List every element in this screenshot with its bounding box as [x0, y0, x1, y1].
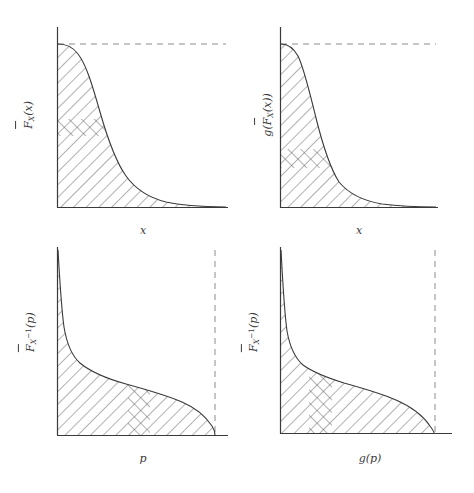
panel-top-left-plot	[0, 0, 240, 245]
panel-top-right-plot	[240, 0, 474, 245]
shaded-area-hatch	[279, 245, 439, 435]
x-axis-label-bottom-left: p	[113, 452, 173, 465]
x-axis-label-top-left: x	[113, 224, 173, 237]
x-axis-label-bottom-right: g(p)	[335, 452, 405, 465]
y-axis-label-top-left: FX(x)	[22, 80, 36, 150]
crosshatch-band	[56, 119, 232, 136]
shaded-area-hatch	[279, 40, 444, 210]
panel-bottom-right: FX−1(p) g(p)	[240, 245, 474, 493]
y-axis-label-top-right: g(FX(x))	[261, 69, 275, 161]
crosshatch-band	[279, 149, 444, 168]
y-axis-label-bottom-right: FX−1(p)	[247, 291, 261, 373]
panel-top-left: FX(x) x	[0, 0, 240, 245]
crosshatch-band	[128, 245, 150, 437]
panel-top-right: g(FX(x)) x	[240, 0, 474, 245]
x-axis-label-top-right: x	[329, 224, 389, 237]
y-axis-label-bottom-left: FX−1(p)	[24, 291, 38, 373]
crosshatch-band	[309, 245, 332, 435]
figure-root: FX(x) x	[0, 0, 474, 493]
panel-bottom-left: FX−1(p) p	[0, 245, 240, 493]
